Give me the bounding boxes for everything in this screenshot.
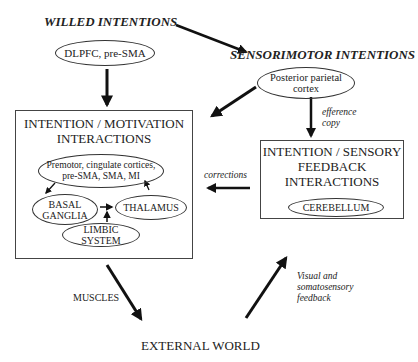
node-dlpfc-label: DLPFC, pre-SMA	[64, 48, 145, 59]
node-external-world: EXTERNAL WORLD	[141, 338, 260, 354]
node-premotor: Premotor, cingulate cortices,pre-SMA, SM…	[38, 154, 164, 188]
box-motivation-title: INTENTION / MOTIVATION INTERACTIONS	[16, 116, 192, 146]
header-sensorimotor-intentions: SENSORIMOTOR INTENTIONS	[230, 47, 415, 63]
header-willed-intentions: WILLED INTENTIONS	[44, 14, 177, 30]
node-thalamus-label: THALAMUS	[123, 202, 179, 213]
node-basal-ganglia: BASALGANGLIA	[32, 194, 98, 225]
node-premotor-label: Premotor, cingulate cortices,pre-SMA, SM…	[47, 160, 156, 182]
node-thalamus: THALAMUS	[115, 195, 187, 220]
label-efference-copy: efference copy	[322, 107, 356, 129]
node-cerebellum: CEREBELLUM	[288, 198, 384, 217]
box-sensory-title: INTENTION / SENSORY FEEDBACK INTERACTION…	[261, 144, 403, 189]
node-basal-label: BASALGANGLIA	[42, 199, 88, 221]
node-posterior-parietal: Posterior parietalcortex	[257, 67, 355, 99]
node-dlpfc: DLPFC, pre-SMA	[55, 40, 155, 66]
label-muscles: MUSCLES	[73, 292, 119, 303]
label-corrections: corrections	[204, 170, 247, 181]
node-limbic-label: LIMBIC SYSTEM	[63, 224, 139, 246]
label-feedback: Visual and somatosensory feedback	[297, 271, 353, 304]
arrow-ppc-to-motivation	[212, 87, 256, 116]
node-ppc-label: Posterior parietalcortex	[270, 72, 342, 94]
node-cerebellum-label: CEREBELLUM	[303, 202, 370, 213]
arrow-feedback	[246, 258, 286, 318]
node-limbic-system: LIMBIC SYSTEM	[62, 223, 140, 247]
